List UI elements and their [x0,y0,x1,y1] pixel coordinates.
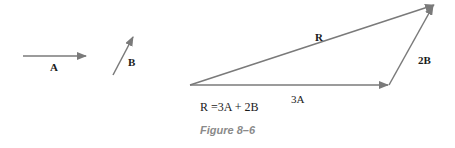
figure-caption: Figure 8–6 [200,124,255,136]
vector-2b-label: 2B [418,54,431,66]
vector-3a-label: 3A [291,93,304,105]
vector-b-label: B [128,56,135,68]
vector-r-label: R [315,31,323,43]
equation: R =3A + 2B [200,100,259,115]
vector-a-label: A [50,61,58,73]
vector-r-arrow [190,5,434,85]
